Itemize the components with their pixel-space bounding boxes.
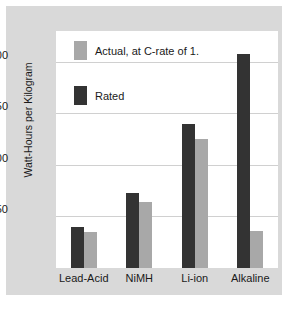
x-axis-tick-label: Alkaline	[210, 272, 288, 284]
y-axis-tick-label: 100	[0, 153, 8, 164]
bar-actual	[250, 231, 263, 268]
bar-actual	[139, 202, 152, 268]
legend-swatch	[74, 41, 87, 60]
legend-item: Actual, at C-rate of 1.	[74, 41, 199, 60]
y-axis-tick-label: 200	[0, 50, 8, 61]
bar-rated	[126, 193, 139, 268]
bar-actual	[195, 139, 208, 268]
bar-rated	[237, 54, 250, 268]
figure-panel: Actual, at C-rate of 1.Rated 50100150200…	[6, 6, 282, 295]
y-axis-title: Watt-Hours per Kilogram	[22, 40, 34, 200]
legend-label: Actual, at C-rate of 1.	[95, 45, 199, 57]
plot-area: Actual, at C-rate of 1.Rated	[56, 31, 278, 268]
chart-legend: Actual, at C-rate of 1.Rated	[74, 41, 199, 131]
y-axis-tick-label: 50	[0, 204, 8, 215]
bar-rated	[182, 124, 195, 268]
legend-label: Rated	[95, 90, 124, 102]
legend-item: Rated	[74, 86, 199, 105]
chart-figure: Actual, at C-rate of 1.Rated 50100150200…	[0, 0, 288, 309]
bar-actual	[84, 232, 97, 268]
y-axis-tick-label: 150	[0, 101, 8, 112]
legend-swatch	[74, 86, 87, 105]
bar-rated	[71, 227, 84, 268]
